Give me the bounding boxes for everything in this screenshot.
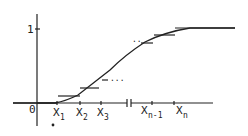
svg-text:X: X — [176, 104, 183, 117]
svg-text:n-1: n-1 — [148, 111, 163, 120]
dot-marker — [52, 124, 55, 127]
x-label-2: X 2 — [76, 106, 88, 122]
svg-text:X: X — [76, 106, 83, 119]
ellipsis-top: .. — [132, 35, 142, 44]
origin-label: 0 — [29, 103, 36, 116]
svg-text:X: X — [53, 106, 60, 119]
svg-text:3: 3 — [104, 113, 109, 122]
x-label-n: X n — [176, 104, 188, 120]
y-tick-label-one: 1 — [27, 23, 34, 36]
ellipsis-mid: ... — [110, 74, 124, 83]
svg-text:1: 1 — [60, 113, 65, 122]
svg-text:n: n — [183, 111, 188, 120]
x-label-3: X 3 — [97, 106, 109, 122]
x-label-n-1: X n-1 — [141, 104, 163, 120]
cdf-diagram: 1 0 X 1 X 2 X 3 X n-1 X n ... .. — [0, 0, 248, 136]
svg-text:2: 2 — [83, 113, 88, 122]
svg-text:X: X — [97, 106, 104, 119]
svg-text:X: X — [141, 104, 148, 117]
x-label-1: X 1 — [53, 106, 65, 122]
cdf-curve — [13, 28, 235, 103]
